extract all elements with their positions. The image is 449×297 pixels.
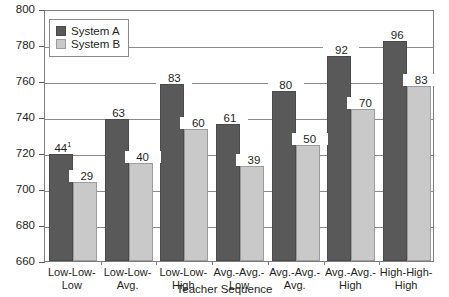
y-axis-tick-label: 780 xyxy=(0,40,35,52)
y-axis-tick-label: 740 xyxy=(0,112,35,124)
legend-swatch-icon xyxy=(56,39,66,49)
legend-item-system-a: System A xyxy=(56,25,120,37)
y-axis-tick-label: 700 xyxy=(0,184,35,196)
bar-value-label: 441 xyxy=(45,142,81,154)
x-axis-tick xyxy=(101,261,102,265)
y-axis-tick xyxy=(39,262,45,263)
bar-value-label: 39 xyxy=(236,154,272,166)
bar-system-a xyxy=(216,124,240,261)
bar-system-b xyxy=(296,145,320,261)
y-axis-tick-label: 720 xyxy=(0,148,35,160)
y-axis-tick-label: 680 xyxy=(0,220,35,232)
y-axis-tick-label: 660 xyxy=(0,256,35,268)
bar-value-label: 40 xyxy=(125,151,161,163)
bar-system-b xyxy=(407,86,431,262)
bar-system-b xyxy=(129,163,153,261)
bar-value-label: 96 xyxy=(379,29,415,41)
bar-system-b xyxy=(240,166,264,261)
x-axis-tick xyxy=(324,261,325,265)
bar-value-label: 50 xyxy=(292,133,328,145)
legend-label: System B xyxy=(71,38,120,50)
bar-value-label: 29 xyxy=(69,170,105,182)
bar-chart: 800 780 760 740 720 700 680 660 44129634… xyxy=(0,0,449,297)
legend-label: System A xyxy=(71,25,120,37)
bar-system-a xyxy=(160,84,184,261)
bar-system-a xyxy=(327,56,351,261)
legend-item-system-b: System B xyxy=(56,38,120,50)
bar-system-b xyxy=(73,182,97,261)
x-axis-title: Teacher Sequence xyxy=(0,283,449,295)
bar-value-label: 70 xyxy=(347,97,383,109)
bar-system-b xyxy=(184,129,208,261)
x-axis-tick xyxy=(379,261,380,265)
y-axis-tick-label: 760 xyxy=(0,76,35,88)
bar-system-a xyxy=(105,119,129,261)
gridline xyxy=(45,83,433,84)
legend-swatch-icon xyxy=(56,26,66,36)
y-axis-tick-label: 800 xyxy=(0,4,35,16)
x-axis-tick xyxy=(212,261,213,265)
x-axis-tick xyxy=(268,261,269,265)
bar-system-b xyxy=(351,109,375,261)
bar-value-label: 92 xyxy=(323,44,359,56)
chart-legend: System A System B xyxy=(49,19,129,57)
bar-value-label: 63 xyxy=(101,107,137,119)
x-axis-tick xyxy=(156,261,157,265)
bar-value-label: 83 xyxy=(156,72,192,84)
bar-value-label: 83 xyxy=(403,74,439,86)
bar-value-label: 80 xyxy=(268,79,304,91)
bar-value-label: 60 xyxy=(180,117,216,129)
bar-value-label: 61 xyxy=(212,112,248,124)
footnote-marker: 1 xyxy=(67,140,71,149)
bar-system-a xyxy=(272,91,296,261)
